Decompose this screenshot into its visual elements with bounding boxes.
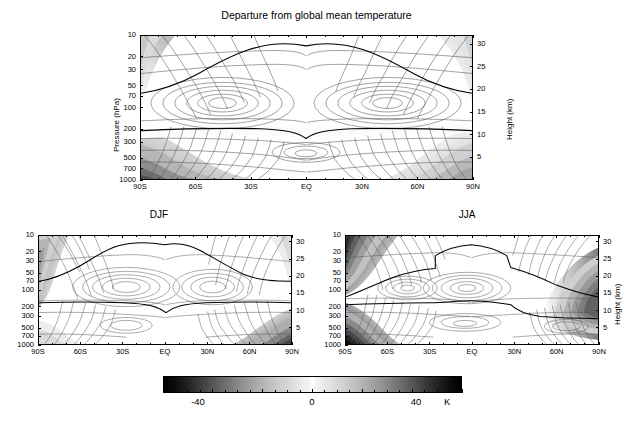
latitude-minor-tick	[528, 235, 529, 237]
latitude-tick-label: 90S	[124, 183, 156, 191]
colorbar-tick	[212, 389, 213, 394]
height-tick	[289, 276, 292, 277]
pressure-tick-label: 500	[104, 154, 136, 162]
latitude-minor-tick	[136, 235, 137, 237]
height-tick	[289, 310, 292, 311]
latitude-minor-tick	[443, 235, 444, 237]
plot-area-annual[interactable]	[140, 35, 473, 180]
latitude-tick	[165, 342, 166, 345]
height-tick	[596, 310, 599, 311]
figure-title: Departure from global mean temperature	[0, 9, 633, 21]
pressure-tick-label: 100	[104, 104, 136, 112]
plot-area-jja[interactable]	[345, 235, 599, 345]
colorbar-tick	[337, 390, 338, 393]
latitude-tick-label: 60N	[234, 348, 266, 356]
colorbar-tick	[250, 390, 251, 393]
latitude-minor-tick	[380, 35, 381, 37]
pressure-tick-label: 10	[309, 231, 341, 239]
pressure-tick-label: 50	[104, 82, 136, 90]
colorbar-tick	[225, 390, 226, 393]
latitude-tick	[251, 35, 252, 38]
latitude-minor-tick	[443, 343, 444, 345]
latitude-tick-label: EQ	[149, 348, 181, 356]
pressure-tick	[140, 107, 143, 108]
latitude-tick	[249, 235, 250, 238]
latitude-minor-tick	[179, 235, 180, 237]
latitude-tick	[429, 235, 430, 238]
latitude-minor-tick	[401, 343, 402, 345]
latitude-minor-tick	[179, 343, 180, 345]
latitude-tick-label: 30S	[107, 348, 139, 356]
latitude-tick	[514, 235, 515, 238]
latitude-minor-tick	[177, 178, 178, 180]
latitude-minor-tick	[214, 178, 215, 180]
latitude-minor-tick	[66, 343, 67, 345]
pressure-tick-label: 20	[309, 248, 341, 256]
height-axis-title-annual: Height (km)	[505, 99, 514, 140]
latitude-tick-label: 30N	[191, 348, 223, 356]
height-tick-label: 30	[296, 238, 316, 246]
latitude-tick	[249, 342, 250, 345]
pressure-tick-label: 700	[104, 165, 136, 173]
latitude-tick-label: 90N	[457, 183, 489, 191]
latitude-tick-label: EQ	[291, 183, 323, 191]
pressure-tick-label: 100	[2, 286, 34, 294]
pressure-tick-label: 30	[309, 257, 341, 265]
latitude-minor-tick	[235, 235, 236, 237]
colorbar-tick	[462, 389, 463, 394]
latitude-minor-tick	[52, 235, 53, 237]
colorbar-tick	[187, 390, 188, 393]
pressure-tick	[140, 142, 143, 143]
height-tick	[470, 134, 473, 135]
colorbar-tick	[424, 390, 425, 393]
latitude-minor-tick	[454, 35, 455, 37]
latitude-tick	[599, 235, 600, 238]
latitude-tick-label: 60N	[541, 348, 573, 356]
latitude-minor-tick	[436, 35, 437, 37]
latitude-tick	[306, 177, 307, 180]
latitude-tick	[345, 235, 346, 238]
pressure-tick-label: 10	[104, 31, 136, 39]
colorbar-label-max: 40	[396, 396, 436, 407]
latitude-minor-tick	[325, 35, 326, 37]
plot-area-djf[interactable]	[38, 235, 292, 345]
latitude-minor-tick	[269, 178, 270, 180]
colorbar-tick	[200, 390, 201, 393]
colorbar-tick	[437, 390, 438, 393]
pressure-tick	[140, 69, 143, 70]
latitude-tick	[362, 177, 363, 180]
latitude-minor-tick	[158, 178, 159, 180]
latitude-minor-tick	[500, 235, 501, 237]
height-tick	[470, 66, 473, 67]
latitude-tick	[140, 35, 141, 38]
latitude-tick	[122, 342, 123, 345]
latitude-minor-tick	[108, 343, 109, 345]
latitude-tick	[207, 235, 208, 238]
height-tick	[596, 259, 599, 260]
height-tick	[596, 293, 599, 294]
colorbar-label-mid: 0	[292, 396, 332, 407]
latitude-minor-tick	[500, 343, 501, 345]
latitude-minor-tick	[232, 178, 233, 180]
pressure-tick	[345, 251, 348, 252]
latitude-tick	[122, 235, 123, 238]
latitude-minor-tick	[343, 35, 344, 37]
latitude-minor-tick	[457, 235, 458, 237]
colorbar-tick	[412, 389, 413, 394]
pressure-tick-label: 200	[104, 125, 136, 133]
pressure-tick-label: 200	[309, 303, 341, 311]
height-tick-label: 5	[477, 153, 497, 161]
pressure-tick	[345, 281, 348, 282]
height-tick-label: 25	[603, 255, 623, 263]
latitude-tick	[38, 342, 39, 345]
pressure-tick	[140, 129, 143, 130]
colorbar-tick	[349, 390, 350, 393]
height-tick-label: 20	[603, 272, 623, 280]
pressure-tick	[38, 316, 41, 317]
height-tick-label: 15	[477, 108, 497, 116]
latitude-minor-tick	[66, 235, 67, 237]
latitude-minor-tick	[380, 178, 381, 180]
colorbar-tick	[287, 390, 288, 393]
latitude-tick	[473, 177, 474, 180]
pressure-tick	[345, 316, 348, 317]
